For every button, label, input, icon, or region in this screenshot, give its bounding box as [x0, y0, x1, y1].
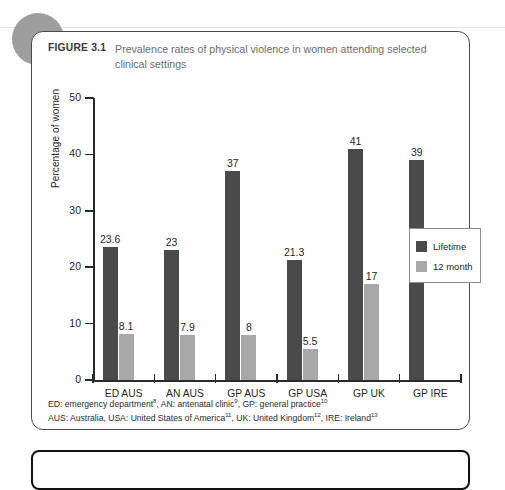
footnote-line-2: AUS: Australia, USA: United States of Am… [48, 410, 458, 424]
footnote-ref-13: 13 [371, 412, 378, 418]
footnote-line-1: ED: emergency department8, AN: antenatal… [48, 396, 458, 410]
legend-item-12-month: 12 month [416, 256, 474, 276]
figure-caption: FIGURE 3.1 Prevalence rates of physical … [48, 42, 458, 72]
legend-swatch-12-month [416, 261, 427, 272]
bar-gp-uk-lifetime [348, 149, 363, 380]
legend-label-lifetime: Lifetime [433, 241, 466, 252]
figure-title: Prevalence rates of physical violence in… [115, 42, 455, 72]
footnote-gp-text: , GP: general practice [238, 399, 321, 409]
footnote-uk-text: , UK: United Kingdom [231, 413, 314, 423]
bar-gp-aus-12-month [241, 335, 256, 380]
bar-value-gp-usa-12-month: 5.5 [293, 335, 327, 347]
bar-ed-aus-12-month [119, 334, 134, 380]
legend-item-lifetime: Lifetime [416, 236, 474, 256]
bar-value-gp-aus-12-month: 8 [232, 321, 266, 333]
bars-layer: 23.68.1237.937821.35.5411739 [32, 80, 471, 390]
next-figure-panel [31, 450, 470, 490]
footnote-ed-text: ED: emergency department [48, 399, 153, 409]
bar-value-an-aus-12-month: 7.9 [171, 321, 205, 333]
bar-value-gp-uk-lifetime: 41 [339, 135, 373, 147]
bar-an-aus-12-month [180, 335, 195, 380]
bar-value-gp-ire-lifetime: 39 [400, 146, 434, 158]
bar-value-ed-aus-lifetime: 23.6 [93, 233, 127, 245]
bar-value-ed-aus-12-month: 8.1 [109, 320, 143, 332]
bar-value-gp-usa-lifetime: 21.3 [277, 246, 311, 258]
chart-plot-area: Percentage of women 01020304050 23.68.12… [32, 80, 471, 390]
figure-number-label: FIGURE 3.1 [48, 42, 106, 53]
footnote-ref-12: 12 [314, 412, 321, 418]
footnote-ire-text: , IRE: Ireland [321, 413, 371, 423]
bar-gp-aus-lifetime [225, 171, 240, 380]
footnote-an-text: , AN: antenatal clinic [156, 399, 234, 409]
bar-value-gp-aus-lifetime: 37 [216, 157, 250, 169]
bar-gp-uk-12-month [364, 284, 379, 380]
bar-gp-usa-lifetime [287, 260, 302, 380]
bar-an-aus-lifetime [164, 250, 179, 380]
footnote-aus-usa-text: AUS: Australia, USA: United States of Am… [48, 413, 225, 423]
bar-value-gp-uk-12-month: 17 [355, 270, 389, 282]
figure-footnotes: ED: emergency department8, AN: antenatal… [48, 396, 458, 425]
bar-value-an-aus-lifetime: 23 [155, 236, 189, 248]
legend-swatch-lifetime [416, 241, 427, 252]
figure-panel: FIGURE 3.1 Prevalence rates of physical … [31, 31, 470, 430]
bar-ed-aus-lifetime [103, 247, 118, 380]
bar-gp-usa-12-month [303, 349, 318, 380]
chart-legend: Lifetime 12 month [409, 228, 481, 283]
background-rule [0, 27, 505, 28]
legend-label-12-month: 12 month [433, 261, 473, 272]
footnote-ref-10: 10 [321, 398, 328, 404]
